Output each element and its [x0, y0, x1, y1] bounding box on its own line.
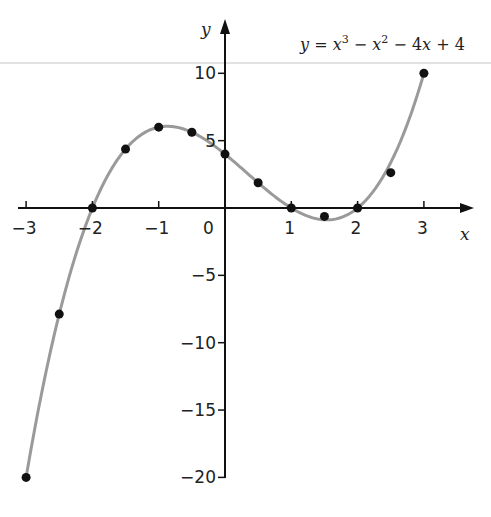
- chart-title: y = x3 − x2 − 4x + 4: [299, 33, 465, 54]
- ticks: −3−2−10123105−5−10−15−20: [12, 63, 428, 487]
- x-tick-label: −3: [12, 218, 37, 238]
- x-tick-label: 0: [203, 218, 214, 238]
- data-point: [287, 204, 296, 213]
- data-point: [221, 150, 230, 159]
- y-tick-label: −20: [180, 467, 216, 487]
- y-tick-label: −15: [180, 400, 216, 420]
- y-tick-label: 10: [194, 63, 216, 83]
- axes: [18, 19, 474, 478]
- y-axis-arrow-icon: [220, 19, 230, 34]
- data-point: [22, 473, 31, 482]
- x-tick-label: −1: [144, 218, 169, 238]
- data-point: [353, 204, 362, 213]
- x-tick-label: −2: [78, 218, 103, 238]
- data-point: [55, 310, 64, 319]
- data-point: [187, 128, 196, 137]
- y-tick-label: −10: [180, 333, 216, 353]
- data-point: [254, 178, 263, 187]
- x-axis-arrow-icon: [460, 203, 474, 213]
- x-tick-label: 2: [351, 218, 362, 238]
- data-point: [386, 168, 395, 177]
- x-tick-label: 1: [284, 218, 295, 238]
- y-axis-label: y: [200, 19, 211, 39]
- x-tick-label: 3: [417, 218, 428, 238]
- data-point: [88, 204, 97, 213]
- x-axis-label: x: [460, 224, 470, 244]
- function-plot: −3−2−10123105−5−10−15−20 x y y = x3 − x2…: [0, 0, 491, 517]
- y-tick-label: 5: [205, 131, 216, 151]
- data-point: [154, 123, 163, 132]
- data-point: [419, 69, 428, 78]
- data-point: [320, 212, 329, 221]
- y-tick-label: −5: [191, 265, 216, 285]
- data-point: [121, 145, 130, 154]
